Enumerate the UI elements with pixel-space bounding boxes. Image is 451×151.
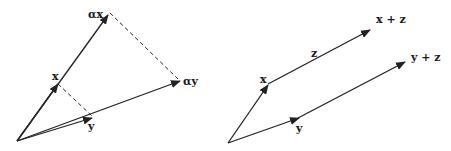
dashed-x-to-y: [58, 84, 92, 116]
vector-x: [228, 85, 268, 143]
label-y: y: [87, 120, 95, 133]
vector-y: [17, 118, 92, 141]
vector-y: [228, 118, 299, 143]
vector-z-from-y: [298, 62, 405, 118]
label-x-plus-z: x + z: [376, 13, 406, 26]
left-panel-scaling: x y αx αy: [17, 8, 198, 141]
vector-alpha-y: [17, 81, 180, 141]
label-alpha-y: αy: [183, 75, 198, 88]
dashed-alphax-to-alphay: [110, 13, 178, 79]
vector-z-from-x: [268, 30, 370, 84]
label-alpha-x: αx: [88, 8, 103, 21]
label-y-plus-z: y + z: [410, 51, 441, 64]
vector-x: [17, 84, 58, 141]
label-y: y: [295, 122, 303, 135]
right-panel-translation: x y z x + z y + z: [228, 13, 441, 143]
label-x: x: [52, 70, 59, 83]
vector-diagram: x y αx αy x y z x + z y + z: [0, 0, 451, 151]
label-x: x: [260, 73, 267, 86]
label-z: z: [311, 47, 317, 60]
